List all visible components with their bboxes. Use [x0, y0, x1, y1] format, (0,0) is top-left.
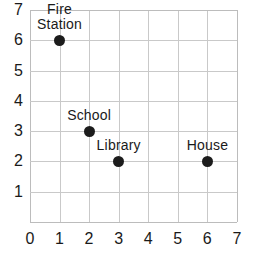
gridline-horizontal-4: [30, 101, 237, 102]
y-axis-tick-label-7: 7: [14, 1, 23, 19]
data-point-school[interactable]: [84, 126, 95, 137]
point-label-school: School: [67, 108, 111, 123]
gridline-horizontal-0: [30, 222, 237, 223]
x-axis-tick-label-1: 1: [55, 230, 64, 248]
gridline-horizontal-5: [30, 71, 237, 72]
gridline-vertical-6: [207, 10, 208, 222]
point-label-library: Library: [97, 138, 141, 153]
gridline-vertical-5: [178, 10, 179, 222]
y-axis-tick-label-2: 2: [14, 152, 23, 170]
x-axis-tick-label-2: 2: [85, 230, 94, 248]
coordinate-grid-figure: 012345671234567FireStationSchoolLibraryH…: [0, 0, 255, 261]
y-axis-tick-label-4: 4: [14, 92, 23, 110]
y-axis-tick-label-1: 1: [14, 183, 23, 201]
x-axis-tick-label-0: 0: [25, 230, 34, 248]
y-axis-tick-label-3: 3: [14, 122, 23, 140]
data-point-house[interactable]: [202, 156, 213, 167]
gridline-vertical-4: [148, 10, 149, 222]
x-axis-tick-label-5: 5: [173, 230, 182, 248]
data-point-fire-station[interactable]: [54, 35, 65, 46]
y-axis-tick-label-6: 6: [14, 31, 23, 49]
x-axis-tick-label-4: 4: [144, 230, 153, 248]
gridline-horizontal-1: [30, 192, 237, 193]
gridline-vertical-0: [30, 10, 31, 222]
gridline-vertical-3: [119, 10, 120, 222]
x-axis-tick-label-3: 3: [114, 230, 123, 248]
point-label-house: House: [187, 138, 228, 153]
point-label-fire-station: FireStation: [31, 2, 89, 32]
gridline-vertical-7: [237, 10, 238, 222]
gridline-horizontal-3: [30, 131, 237, 132]
x-axis-tick-label-7: 7: [232, 230, 241, 248]
x-axis-tick-label-6: 6: [203, 230, 212, 248]
y-axis-tick-label-5: 5: [14, 62, 23, 80]
